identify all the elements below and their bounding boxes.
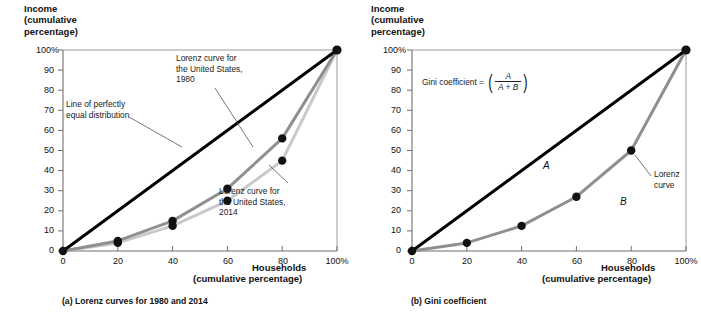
- formula-fraction: A A + B: [495, 71, 521, 92]
- leader-lorenz-2014: [269, 165, 288, 183]
- x-axis-title-line1-b: Households: [601, 262, 655, 273]
- gini-formula: Gini coefficient = ( A A + B ): [422, 71, 529, 92]
- x-axis-title-line2-a: (cumulative percentage): [193, 273, 302, 284]
- panel-gini-coefficient: Income (cumulative percentage) 100% 90 8…: [351, 0, 701, 313]
- formula-denominator: A + B: [495, 81, 521, 92]
- annotation-lorenz-2014: Lorenz curve for the United States, 2014: [219, 186, 286, 218]
- panel-lorenz-curves: Income (cumulative percentage) 100% 90 8…: [0, 0, 350, 313]
- formula-close-paren: ): [524, 71, 528, 92]
- annotation-equality-line: Line of perfectly equal distribution: [66, 99, 129, 120]
- x-axis-title-line2-b: (cumulative percentage): [542, 273, 651, 284]
- leader-lorenz-curve-b: [635, 155, 651, 176]
- leader-equality-line: [129, 117, 182, 147]
- x-axis-title-line1-a: Households: [252, 262, 306, 273]
- gini-formula-label: Gini coefficient =: [422, 77, 484, 87]
- caption-panel-a: (a) Lorenz curves for 1980 and 2014: [62, 296, 208, 306]
- region-label-b: B: [620, 196, 627, 207]
- annotation-lorenz-curve-b: Lorenz curve: [654, 169, 680, 190]
- caption-panel-b: (b) Gini coefficient: [411, 296, 486, 306]
- formula-open-paren: (: [488, 71, 492, 92]
- region-label-a: A: [543, 160, 550, 171]
- annotation-lorenz-1980: Lorenz curve for the United States, 1980: [176, 53, 243, 85]
- formula-numerator: A: [502, 71, 514, 81]
